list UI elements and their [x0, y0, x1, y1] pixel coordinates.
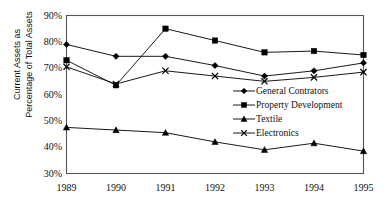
legend-item: Textile [232, 112, 382, 126]
legend-label: General Contrators [256, 86, 329, 97]
square-marker [311, 48, 316, 53]
series-general-contrators [63, 41, 366, 79]
diamond-marker [63, 41, 69, 47]
triangle-marker [311, 140, 317, 146]
cross-legend-icon [232, 126, 256, 140]
legend-item: General Contrators [232, 84, 382, 98]
square-marker [361, 52, 366, 57]
triangle-legend-icon [232, 112, 256, 126]
diamond-marker [113, 53, 119, 59]
square-marker [262, 50, 267, 55]
legend-label: Electronics [256, 128, 299, 139]
square-marker [242, 103, 247, 108]
line-chart: Current Assets as Percentage of Total As… [0, 0, 389, 205]
legend-item: Electronics [232, 126, 382, 140]
square-marker [212, 38, 217, 43]
diamond-legend-icon [232, 84, 256, 98]
square-legend-icon [232, 98, 256, 112]
diamond-marker [261, 73, 267, 79]
diamond-marker [241, 88, 247, 94]
square-marker [64, 58, 69, 63]
legend-item: Property Development [232, 98, 382, 112]
diamond-marker [360, 60, 366, 66]
diamond-marker [311, 68, 317, 74]
legend-label: Textile [256, 114, 282, 125]
diamond-marker [162, 53, 168, 59]
diamond-marker [212, 62, 218, 68]
legend-label: Property Development [256, 100, 342, 111]
square-marker [163, 26, 168, 31]
series-property-development [64, 26, 366, 88]
chart-legend: General ContratorsProperty DevelopmentTe… [232, 84, 382, 140]
